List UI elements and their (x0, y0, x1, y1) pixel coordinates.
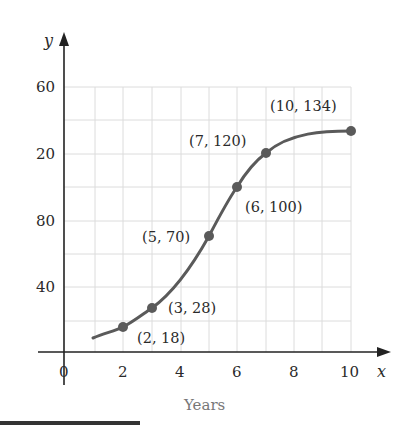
data-point (232, 182, 242, 192)
data-point (346, 126, 356, 136)
x-axis-variable: x (377, 362, 386, 381)
point-label: (6, 100) (245, 199, 302, 215)
x-axis-arrow-icon (377, 347, 391, 357)
chart: y x 60 20 80 40 0 2 4 6 8 10 Years (2, 1… (0, 0, 414, 425)
figure-caption-fragment (0, 421, 140, 425)
y-tick-label: 80 (36, 212, 55, 230)
point-label: (2, 18) (137, 330, 185, 346)
point-label: (3, 28) (168, 300, 216, 316)
y-axis-arrow-icon (59, 32, 69, 46)
axes (38, 32, 391, 385)
data-point (147, 303, 157, 313)
data-point (261, 148, 271, 158)
point-label: (10, 134) (270, 98, 337, 114)
point-label: (7, 120) (189, 133, 246, 149)
x-axis-title: Years (183, 396, 225, 414)
growth-curve (93, 131, 351, 338)
data-point (204, 231, 214, 241)
x-tick-label: 2 (118, 363, 128, 381)
y-axis-variable: y (43, 31, 54, 50)
x-tick-label: 0 (59, 363, 69, 381)
y-tick-label: 60 (36, 78, 55, 96)
x-tick-label: 4 (175, 363, 185, 381)
x-tick-label: 10 (340, 363, 359, 381)
y-tick-label: 40 (36, 278, 55, 296)
x-tick-label: 6 (232, 363, 242, 381)
point-label: (5, 70) (142, 229, 190, 245)
data-point (118, 322, 128, 332)
x-tick-label: 8 (289, 363, 299, 381)
y-tick-label: 20 (36, 145, 55, 163)
